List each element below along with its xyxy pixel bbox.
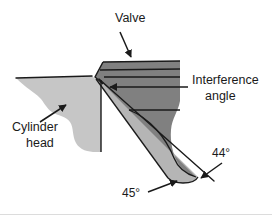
figure-canvas: Valve Interference angle Cylinder head 4… xyxy=(0,0,272,215)
label-cylinder-head-line1: Cylinder xyxy=(12,120,58,134)
angle-44-leader-arrow xyxy=(201,163,222,178)
valve-interference-angle-diagram: Valve Interference angle Cylinder head 4… xyxy=(0,0,272,215)
valve-top-edge xyxy=(103,61,180,62)
label-angle-45: 45° xyxy=(122,186,140,200)
figure-bottom-border xyxy=(0,214,272,215)
label-cylinder-head-line2: head xyxy=(26,136,54,150)
label-interference-angle-line2: angle xyxy=(205,89,236,103)
label-interference-angle-line1: Interference xyxy=(192,73,259,87)
angle-45-leader-arrow xyxy=(148,181,177,192)
valve-leader-arrow xyxy=(120,32,131,57)
label-angle-44: 44° xyxy=(212,146,230,160)
label-valve: Valve xyxy=(115,11,145,25)
